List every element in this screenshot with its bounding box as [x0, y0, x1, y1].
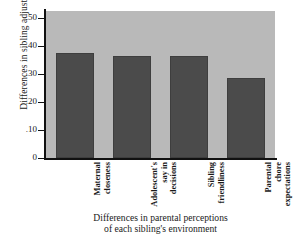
y-tick-5: [38, 158, 45, 159]
x-axis-title: Differences in parental perceptionsof ea…: [46, 212, 275, 234]
y-tick-label-5: 0: [3, 153, 37, 162]
x-axis-title-line-1: of each sibling's environment: [46, 223, 275, 234]
y-tick-0: [38, 18, 45, 19]
y-tick-label-0: .50: [3, 13, 37, 22]
bar-sibling-friendliness: [170, 56, 208, 158]
bar-chart-figure: Differences in sibling adjustment .50.40…: [0, 0, 293, 241]
y-tick-2: [38, 74, 45, 75]
y-tick-label-4: .10: [3, 125, 37, 134]
y-tick-label-2: .30: [3, 69, 37, 78]
y-tick-label-1: .40: [3, 41, 37, 50]
bar-parental-chore-expectations: [227, 78, 265, 158]
bar-adolescents-say-in-decisions: [113, 56, 151, 158]
y-axis-line: [44, 9, 46, 160]
x-axis-line: [44, 158, 277, 160]
bar-maternal-closeness: [56, 53, 94, 158]
x-axis-title-line-0: Differences in parental perceptions: [46, 212, 275, 223]
y-tick-4: [38, 130, 45, 131]
y-tick-3: [38, 102, 45, 103]
plot-area: [46, 11, 275, 158]
y-tick-label-3: .20: [3, 97, 37, 106]
y-tick-1: [38, 46, 45, 47]
